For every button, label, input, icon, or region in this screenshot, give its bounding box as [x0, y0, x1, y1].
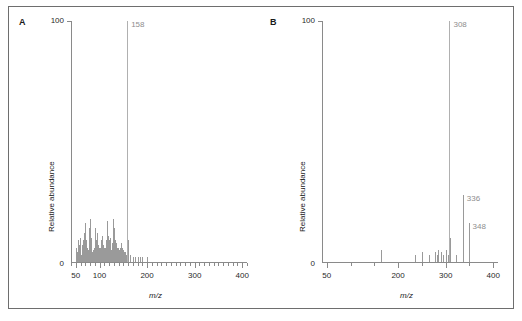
- x-axis-minor-tick: [214, 263, 215, 266]
- spectrum-peak: [422, 252, 423, 262]
- spectrum-peak: [128, 252, 129, 262]
- x-axis-minor-tick: [223, 263, 224, 266]
- x-axis-minor-tick: [104, 263, 105, 266]
- x-axis-major-tick: [195, 263, 196, 268]
- panel-b: B Relative abundance 100 0 5020030040030…: [258, 7, 515, 308]
- x-axis-minor-tick: [138, 263, 139, 266]
- x-axis-minor-tick: [351, 263, 352, 266]
- panel-b-y-tick-100: [318, 21, 322, 22]
- x-axis-minor-tick: [374, 263, 375, 266]
- panel-a-y-label-0: 0: [38, 259, 64, 268]
- x-axis-minor-tick: [152, 263, 153, 266]
- x-axis-minor-tick: [204, 263, 205, 266]
- x-axis-tick-label: 400: [236, 271, 249, 280]
- x-axis-minor-tick: [119, 263, 120, 266]
- spectrum-peak: [147, 257, 148, 262]
- peak-label-308: 308: [453, 20, 466, 29]
- x-axis-minor-tick: [157, 263, 158, 266]
- peak-label-158: 158: [131, 20, 144, 29]
- x-axis-major-tick: [100, 263, 101, 268]
- panel-a-x-axis: [71, 262, 247, 263]
- panel-a: A Relative abundance 100 0 5010020030040…: [9, 7, 264, 308]
- mass-spectra-figure: A Relative abundance 100 0 5010020030040…: [0, 0, 522, 321]
- spectrum-peak: [127, 21, 128, 262]
- x-axis-minor-tick: [190, 263, 191, 266]
- x-axis-minor-tick: [90, 263, 91, 266]
- panel-b-y-label-0: 0: [289, 259, 315, 268]
- panel-b-plot-area: 100 0 50200300400308336348: [322, 21, 498, 263]
- x-axis-minor-tick: [114, 263, 115, 266]
- spectrum-peak: [469, 255, 470, 262]
- panel-b-y-axis-title: Relative abundance: [298, 161, 307, 232]
- x-axis-minor-tick: [161, 263, 162, 266]
- x-axis-major-tick: [493, 263, 494, 268]
- x-axis-minor-tick: [199, 263, 200, 266]
- x-axis-major-tick: [446, 263, 447, 268]
- panel-a-letter: A: [19, 17, 26, 27]
- x-axis-minor-tick: [71, 263, 72, 266]
- spectrum-peak: [415, 255, 416, 262]
- x-axis-tick-label: 100: [93, 271, 106, 280]
- spectrum-peak: [450, 238, 451, 262]
- panel-a-y-tick-100: [67, 21, 71, 22]
- spectrum-peak: [463, 250, 464, 262]
- spectrum-peak: [133, 257, 134, 262]
- peak-label-348: 348: [473, 222, 486, 231]
- panel-a-y-axis-title: Relative abundance: [47, 161, 56, 232]
- x-axis-major-tick: [76, 263, 77, 268]
- x-axis-minor-tick: [176, 263, 177, 266]
- x-axis-minor-tick: [128, 263, 129, 266]
- panel-a-x-axis-title: m/z: [149, 291, 162, 300]
- x-axis-major-tick: [398, 263, 399, 268]
- spectrum-peak: [138, 257, 139, 262]
- panel-a-y-axis: [71, 21, 72, 263]
- panel-b-x-axis: [322, 262, 498, 263]
- spectrum-peak: [446, 250, 447, 262]
- panel-b-y-axis: [322, 21, 323, 263]
- panel-a-plot-area: 100 0 50100200300400158: [71, 21, 247, 263]
- x-axis-minor-tick: [185, 263, 186, 266]
- spectrum-peak: [135, 257, 136, 262]
- figure-frame: A Relative abundance 100 0 5010020030040…: [8, 6, 514, 309]
- x-axis-tick-label: 200: [140, 271, 153, 280]
- spectrum-peak: [443, 255, 444, 262]
- peak-label-336: 336: [467, 194, 480, 203]
- spectrum-peak: [142, 257, 143, 262]
- x-axis-minor-tick: [81, 263, 82, 266]
- x-axis-minor-tick: [422, 263, 423, 266]
- x-axis-minor-tick: [109, 263, 110, 266]
- x-axis-tick-label: 300: [439, 271, 452, 280]
- x-axis-major-tick: [327, 263, 328, 268]
- x-axis-minor-tick: [95, 263, 96, 266]
- x-axis-tick-label: 300: [188, 271, 201, 280]
- x-axis-minor-tick: [180, 263, 181, 266]
- panel-b-letter: B: [270, 17, 277, 27]
- x-axis-minor-tick: [123, 263, 124, 266]
- spectrum-peak: [381, 250, 382, 262]
- x-axis-tick-label: 400: [487, 271, 500, 280]
- x-axis-minor-tick: [237, 263, 238, 266]
- x-axis-minor-tick: [171, 263, 172, 266]
- spectrum-peak: [140, 257, 141, 262]
- x-axis-minor-tick: [142, 263, 143, 266]
- spectrum-peak: [456, 255, 457, 262]
- x-axis-minor-tick: [209, 263, 210, 266]
- x-axis-major-tick: [147, 263, 148, 268]
- spectrum-peak: [429, 255, 430, 262]
- spectrum-peak: [438, 250, 439, 262]
- x-axis-minor-tick: [85, 263, 86, 266]
- x-axis-minor-tick: [469, 263, 470, 266]
- x-axis-tick-label: 200: [391, 271, 404, 280]
- panel-a-y-label-100: 100: [38, 16, 64, 25]
- panel-b-x-axis-title: m/z: [400, 291, 413, 300]
- x-axis-minor-tick: [133, 263, 134, 266]
- x-axis-tick-label: 50: [71, 271, 80, 280]
- spectrum-peak: [130, 255, 131, 262]
- x-axis-minor-tick: [166, 263, 167, 266]
- x-axis-minor-tick: [233, 263, 234, 266]
- x-axis-major-tick: [242, 263, 243, 268]
- x-axis-minor-tick: [247, 263, 248, 266]
- x-axis-minor-tick: [218, 263, 219, 266]
- spectrum-peak: [449, 21, 450, 262]
- panel-b-y-label-100: 100: [289, 16, 315, 25]
